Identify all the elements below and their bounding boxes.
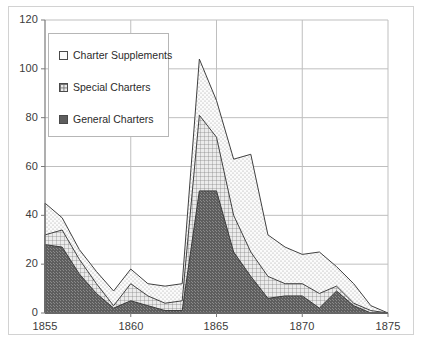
y-tick-label-40: 40 xyxy=(11,208,38,220)
x-tick-label-1870: 1870 xyxy=(279,320,325,332)
chart-legend: Charter Supplements Special Charters Gen… xyxy=(48,33,169,137)
legend-label-general-charters: General Charters xyxy=(73,113,154,125)
legend-swatch-charter-supplements xyxy=(59,51,68,60)
legend-item-charter-supplements: Charter Supplements xyxy=(59,49,172,61)
x-tick-label-1875: 1875 xyxy=(365,320,411,332)
legend-swatch-general-charters xyxy=(59,115,68,124)
legend-item-general-charters: General Charters xyxy=(59,113,154,125)
chart-container: 120 100 80 60 40 20 0 1855 1860 1865 187… xyxy=(0,0,427,348)
x-tick-label-1855: 1855 xyxy=(22,320,68,332)
y-tick-label-20: 20 xyxy=(11,257,38,269)
x-tick-label-1865: 1865 xyxy=(193,320,239,332)
x-tick-label-1860: 1860 xyxy=(108,320,154,332)
y-tick-label-60: 60 xyxy=(11,160,38,172)
legend-swatch-special-charters xyxy=(59,83,68,92)
y-tick-label-120: 120 xyxy=(11,13,38,25)
legend-label-charter-supplements: Charter Supplements xyxy=(73,49,172,61)
legend-label-special-charters: Special Charters xyxy=(73,81,151,93)
y-tick-label-100: 100 xyxy=(11,62,38,74)
y-tick-label-0: 0 xyxy=(11,306,38,318)
y-tick-label-80: 80 xyxy=(11,111,38,123)
legend-item-special-charters: Special Charters xyxy=(59,81,151,93)
